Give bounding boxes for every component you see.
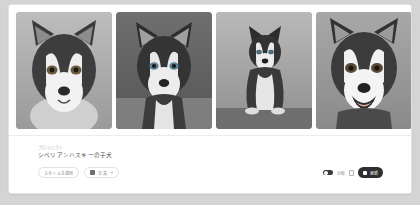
gallery-image-3[interactable] (216, 12, 312, 129)
gallery-card: プロジェクト シベリアンハスキーの子犬 スタイルを適用 写真 比較 (8, 4, 412, 194)
left-action-group: スタイルを適用 写真 (38, 167, 119, 178)
project-info: プロジェクト シベリアンハスキーの子犬 (9, 136, 411, 160)
photo-select-button[interactable]: 写真 (84, 167, 118, 178)
apply-style-button[interactable]: スタイルを適用 (38, 167, 79, 178)
project-eyebrow-label: プロジェクト (38, 145, 383, 150)
chevron-down-icon (111, 172, 113, 174)
update-button[interactable]: 更新 (358, 167, 383, 178)
gallery-image-4[interactable] (316, 12, 412, 129)
image-gallery (9, 5, 411, 129)
refresh-icon (363, 171, 367, 175)
layout-icon[interactable] (349, 170, 354, 176)
compare-toggle-label: 比較 (337, 170, 345, 176)
photo-select-label: 写真 (98, 170, 106, 176)
action-bar: スタイルを適用 写真 比較 更新 (9, 160, 411, 178)
gallery-image-1[interactable] (16, 12, 112, 129)
apply-style-label: スタイルを適用 (44, 170, 73, 176)
compare-toggle[interactable] (323, 170, 333, 176)
project-title: シベリアンハスキーの子犬 (38, 152, 383, 160)
gallery-image-2[interactable] (116, 12, 212, 129)
app-background: プロジェクト シベリアンハスキーの子犬 スタイルを適用 写真 比較 (0, 0, 420, 205)
right-action-group: 比較 更新 (323, 167, 383, 178)
photo-icon (90, 170, 95, 175)
update-button-label: 更新 (370, 170, 378, 176)
